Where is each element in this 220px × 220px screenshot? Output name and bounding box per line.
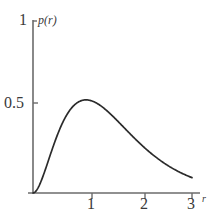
x-tick-label-3: 3 <box>187 196 195 212</box>
x-tick-label-2: 2 <box>140 196 148 212</box>
y-axis-title: p(r) <box>38 14 57 26</box>
x-tick-label-1: 1 <box>87 196 95 212</box>
x-axis-title: r <box>202 194 206 204</box>
y-tick-label-1: 1 <box>19 12 27 28</box>
data-curve-p-of-r <box>33 100 192 193</box>
chart-figure: 1 0.5 1 2 3 p(r) r <box>0 0 220 220</box>
plot-canvas <box>0 0 220 220</box>
y-tick-label-0-5: 0.5 <box>4 95 24 111</box>
